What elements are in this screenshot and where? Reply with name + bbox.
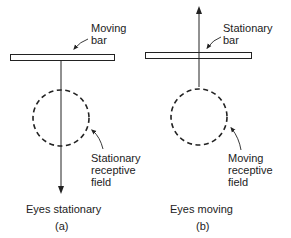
- field-label-pointer: [93, 131, 103, 149]
- stationary-field-label-line3: field: [91, 176, 111, 188]
- moving-bar: [11, 55, 115, 61]
- field-label-pointer: [232, 129, 241, 150]
- caption-a: Eyes stationary: [26, 203, 101, 215]
- panel-letter-b: (b): [196, 220, 209, 232]
- stationary-bar-label-line1: Stationary: [223, 22, 273, 34]
- moving-bar-label-line2: bar: [91, 34, 107, 46]
- moving-receptive-field: [171, 89, 227, 145]
- stationary-field-label-line1: Stationary: [91, 152, 141, 164]
- stationary-bar-label-line2: bar: [223, 34, 239, 46]
- bar-label-pointer: [208, 37, 221, 47]
- panel-letter-a: (a): [55, 220, 68, 232]
- moving-field-label-line2: receptive: [228, 164, 273, 176]
- bar-label-pointer: [75, 39, 88, 48]
- moving-field-label-line3: field: [228, 176, 248, 188]
- stationary-field-label-line2: receptive: [91, 164, 136, 176]
- moving-field-label-line1: Moving: [228, 152, 263, 164]
- caption-b: Eyes moving: [170, 203, 233, 215]
- moving-bar-label-line1: Moving: [91, 22, 126, 34]
